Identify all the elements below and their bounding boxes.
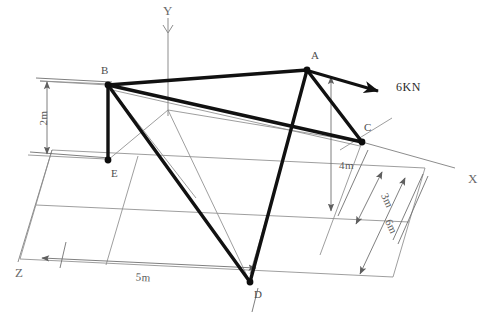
- truss-joints: [105, 67, 366, 286]
- joint-label-B: B: [101, 64, 109, 76]
- axis-x: [362, 142, 455, 168]
- joint-A: [304, 67, 311, 74]
- axis-label-x: X: [468, 171, 478, 186]
- member-B-D: [108, 85, 250, 282]
- member-A-D: [250, 70, 307, 282]
- joint-D: [247, 279, 254, 286]
- joint-label-D: D: [254, 288, 262, 300]
- dimension-label-4m: 4m: [339, 159, 354, 171]
- axis-z: [18, 150, 52, 262]
- joint-C: [359, 139, 366, 146]
- joint-label-C: C: [364, 121, 372, 133]
- axis-label-z: Z: [15, 265, 23, 280]
- joint-label-A: A: [311, 49, 319, 61]
- joint-label-E: E: [111, 167, 118, 179]
- dimension-label-2m: 2m: [37, 111, 49, 126]
- axis-y: [163, 18, 173, 116]
- dimension-label-3m: 3m: [379, 191, 396, 210]
- joint-B: [105, 82, 112, 89]
- diagram-canvas: Y X Z 2m 4m 3m 6m: [0, 0, 499, 333]
- ground-plane-construction-lines: [20, 70, 425, 282]
- space-frame-diagram: Y X Z 2m 4m 3m 6m: [0, 0, 499, 333]
- axis-label-y: Y: [163, 3, 173, 18]
- load-label-6kn: 6KN: [396, 80, 421, 94]
- dimension-label-6m: 6m: [383, 217, 400, 236]
- member-B-A: [108, 70, 307, 85]
- dimension-label-5m: 5m: [135, 271, 151, 284]
- joint-E: [105, 157, 112, 164]
